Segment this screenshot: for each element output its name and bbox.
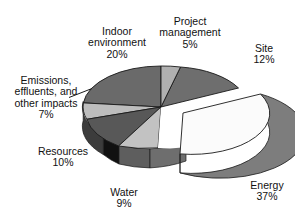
label-indoor-environment-text: Indoor environment bbox=[88, 25, 146, 49]
label-site-pct: 12% bbox=[241, 54, 287, 66]
label-resources-text: Resources bbox=[38, 145, 88, 157]
label-energy-text: Energy bbox=[250, 179, 283, 191]
label-project-management-text: Project management bbox=[159, 15, 220, 39]
label-project-management-pct: 5% bbox=[151, 39, 229, 51]
label-emissions-text: Emissions, effluents, and other impacts bbox=[14, 74, 77, 109]
pie-chart-figure: Indoor environment 20% Project managemen… bbox=[0, 0, 307, 210]
label-site: Site 12% bbox=[241, 31, 287, 77]
label-resources-pct: 10% bbox=[25, 157, 101, 169]
label-indoor-environment-pct: 20% bbox=[76, 49, 158, 61]
label-water: Water 9% bbox=[101, 175, 147, 210]
label-project-management: Project management 5% bbox=[151, 4, 229, 62]
label-site-text: Site bbox=[255, 42, 273, 54]
label-emissions: Emissions, effluents, and other impacts … bbox=[3, 63, 89, 132]
label-resources: Resources 10% bbox=[25, 134, 101, 180]
label-emissions-pct: 7% bbox=[3, 109, 89, 121]
label-water-text: Water bbox=[110, 186, 138, 198]
label-energy-pct: 37% bbox=[239, 191, 295, 203]
label-water-pct: 9% bbox=[101, 198, 147, 210]
slice-indoor-environment bbox=[83, 66, 161, 107]
label-energy: Energy 37% bbox=[239, 168, 295, 210]
